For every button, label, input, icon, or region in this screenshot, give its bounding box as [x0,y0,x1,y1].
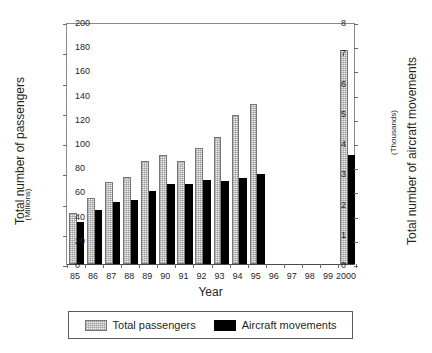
y-axis-left-tick-label: 8 [341,19,346,28]
y-axis-left-tick [63,54,67,55]
bar-total-passengers [232,115,240,264]
x-axis-tick [248,264,249,268]
y-axis-left-tick-label: 6 [341,80,346,89]
x-axis-tick [302,264,303,268]
bar-total-passengers [159,155,167,265]
bar-aircraft-movements [149,191,157,264]
x-axis-tick [266,264,267,268]
x-axis-tick [320,264,321,268]
bar-total-passengers [105,182,113,264]
legend-entry-total-passengers: Total passengers [85,319,196,331]
y-axis-right-tick [354,145,358,146]
bar-aircraft-movements [239,178,247,264]
x-axis-tick [284,264,285,268]
x-axis-tick [212,264,213,268]
y-axis-right-tick [354,97,358,98]
bar-aircraft-movements [95,210,103,264]
x-axis-tick [338,264,339,268]
y-axis-right-tick [354,218,358,219]
x-axis-tick [356,264,357,268]
bar-aircraft-movements [348,155,356,264]
y-axis-left-tick [63,175,67,176]
x-axis-tick-label: 2000 [332,272,360,281]
legend-label-total-passengers: Total passengers [113,319,196,331]
y-axis-left-tick [63,115,67,116]
y-axis-right-tick-label: 60 [75,188,85,197]
x-axis-tick [121,264,122,268]
bar-aircraft-movements [221,181,229,264]
legend-entry-aircraft-movements: Aircraft movements [214,319,337,331]
y-axis-right-tick [354,169,358,170]
y-axis-right-tick-label: 80 [75,164,85,173]
y-axis-left-tick [63,145,67,146]
y-axis-left-tick-label: 3 [341,170,346,179]
x-axis-tick [157,264,158,268]
legend-swatch-total-passengers [85,320,107,331]
y-axis-right-tick-label: 200 [75,19,90,28]
y-axis-left-tick-label: 2 [341,201,346,210]
bar-aircraft-movements [203,180,211,264]
y-axis-left-tick-label: 5 [341,110,346,119]
bar-total-passengers [87,198,95,264]
y-axis-right-tick [354,48,358,49]
x-axis-title: Year [66,285,355,299]
y-axis-right-tick [354,24,358,25]
y-axis-left-tick-label: 1 [341,231,346,240]
bar-chart: Total number of passengers (Millions) To… [0,0,432,353]
y-axis-right-tick-label: 20 [75,237,85,246]
y-axis-right-tick-label: 160 [75,67,90,76]
x-axis-tick [67,264,68,268]
x-axis-tick [193,264,194,268]
bar-aircraft-movements [131,200,139,264]
bar-aircraft-movements [185,184,193,264]
y-axis-left-tick [63,206,67,207]
y-axis-right-unit: (Thousands) [389,93,398,173]
legend-swatch-aircraft-movements [214,320,236,331]
bar-total-passengers [177,161,185,264]
y-axis-right-tick-label: 40 [75,213,85,222]
y-axis-left-unit: (Millions) [23,165,32,245]
y-axis-left-tick [63,24,67,25]
x-axis-tick [103,264,104,268]
bar-total-passengers [250,104,258,264]
y-axis-left-tick-label: 0 [341,261,346,270]
legend: Total passengers Aircraft movements [68,311,353,339]
bar-total-passengers [214,137,222,264]
y-axis-right-tick [354,193,358,194]
y-axis-right-title: Total number of aircraft movements [405,51,419,251]
y-axis-right-tick-label: 0 [75,261,80,270]
x-axis-tick [230,264,231,268]
y-axis-right-tick-label: 100 [75,140,90,149]
legend-label-aircraft-movements: Aircraft movements [242,319,337,331]
y-axis-right-tick [354,242,358,243]
y-axis-left-tick [63,236,67,237]
y-axis-right-tick-label: 180 [75,43,90,52]
bar-total-passengers [123,177,131,264]
x-axis-tick [139,264,140,268]
bars-layer [67,24,354,264]
y-axis-right-tick [354,121,358,122]
y-axis-right-tick-label: 120 [75,116,90,125]
bar-aircraft-movements [167,184,175,264]
plot-area: 012345678 020406080100120140160180200 [66,23,355,265]
y-axis-left-tick [63,85,67,86]
y-axis-left-tick-label: 4 [341,140,346,149]
bar-total-passengers [141,161,149,264]
y-axis-right-tick [354,72,358,73]
x-axis-tick [85,264,86,268]
y-axis-right-tick-label: 140 [75,92,90,101]
bar-aircraft-movements [257,174,265,264]
x-axis-tick [175,264,176,268]
y-axis-left-tick-label: 7 [341,49,346,58]
bar-total-passengers [195,148,203,264]
bar-aircraft-movements [113,202,121,264]
